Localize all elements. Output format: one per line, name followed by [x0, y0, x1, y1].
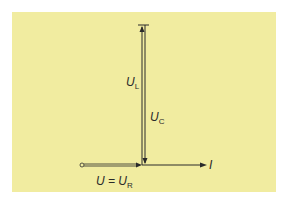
phasor-UL	[140, 26, 145, 165]
label-I: I	[209, 158, 213, 172]
phasor-UR	[80, 163, 142, 168]
label-UL: UL	[126, 75, 140, 91]
phasor-diagram: UL UC U = UR I	[0, 0, 291, 200]
phasor-UC	[143, 25, 148, 164]
current-axis	[142, 163, 207, 168]
label-U-eq-UR: U = UR	[96, 174, 133, 190]
label-UC: UC	[150, 110, 165, 126]
